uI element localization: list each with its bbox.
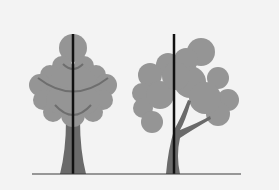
right-canopy	[132, 38, 239, 133]
symmetric-tree	[29, 34, 117, 174]
diagram-svg	[0, 0, 279, 190]
tree-diagram	[0, 0, 279, 190]
asymmetric-tree	[132, 34, 239, 174]
